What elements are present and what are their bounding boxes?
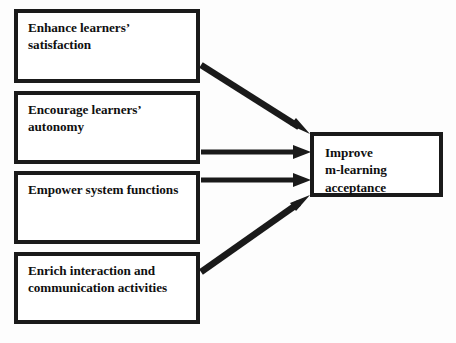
connector-enhance-to-improve xyxy=(201,65,310,134)
node-empower-system-functions[interactable]: Empower system functions xyxy=(14,171,200,244)
connector-enrich-to-improve xyxy=(201,195,310,272)
node-label: Empower system functions xyxy=(28,182,190,199)
connector-empower-to-improve xyxy=(201,173,311,187)
node-encourage-learners-autonomy[interactable]: Encourage learners’ autonomy xyxy=(14,91,200,164)
node-label: Enrich interaction and communication act… xyxy=(28,263,190,297)
node-enhance-learners-satisfaction[interactable]: Enhance learners’ satisfaction xyxy=(14,9,200,83)
node-label: Enhance learners’ satisfaction xyxy=(28,20,190,54)
node-label: Improve m-learning acceptance xyxy=(325,144,433,196)
node-improve-m-learning-acceptance[interactable]: Improve m-learning acceptance xyxy=(310,132,443,197)
connector-encourage-to-improve xyxy=(201,145,311,159)
node-label: Encourage learners’ autonomy xyxy=(28,102,190,136)
node-enrich-interaction-communication[interactable]: Enrich interaction and communication act… xyxy=(14,252,200,324)
flow-diagram: Enhance learners’ satisfaction Encourage… xyxy=(0,0,456,343)
